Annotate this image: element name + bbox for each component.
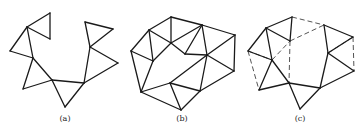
panel-c-chain-with-dashed-fill	[248, 17, 354, 109]
solid-edge	[131, 30, 149, 51]
solid-edge	[170, 55, 207, 83]
solid-edge	[207, 55, 234, 71]
dashed-edge	[289, 41, 290, 83]
caption-a: (a)	[59, 114, 70, 123]
solid-edge	[266, 28, 290, 41]
solid-edge	[324, 25, 328, 53]
solid-edge	[320, 71, 354, 88]
solid-edge	[85, 22, 90, 47]
solid-edge	[10, 51, 33, 58]
solid-edge	[202, 25, 207, 55]
solid-edge	[181, 91, 200, 110]
solid-edge	[141, 61, 153, 92]
solid-edge	[85, 22, 113, 29]
dashed-edge	[292, 17, 324, 25]
solid-edge	[10, 27, 27, 51]
solid-edge	[300, 88, 320, 109]
solid-edge	[84, 47, 90, 83]
solid-edge	[149, 30, 171, 43]
solid-edge	[266, 28, 272, 60]
solid-edge	[171, 43, 185, 54]
solid-edge	[248, 28, 266, 51]
panel-a-triangle-chain	[10, 13, 118, 107]
solid-edge	[170, 83, 200, 91]
solid-edge	[185, 54, 207, 55]
solid-edge	[289, 83, 300, 109]
solid-edge	[248, 51, 272, 60]
solid-edge	[328, 37, 353, 53]
solid-edge	[131, 51, 141, 92]
solid-edge	[320, 53, 328, 88]
solid-edge	[90, 47, 118, 63]
solid-edge	[259, 83, 289, 90]
solid-edge	[328, 53, 354, 71]
solid-edge	[200, 55, 207, 91]
dashed-edge	[272, 41, 290, 60]
solid-edge	[27, 27, 33, 58]
caption-c: (c)	[295, 114, 306, 123]
triangulation-figure: (a) (b) (c)	[0, 0, 364, 136]
dashed-edge	[290, 25, 324, 41]
solid-edge	[27, 27, 50, 39]
solid-edge	[52, 80, 65, 107]
solid-edge	[234, 35, 235, 71]
solid-edge	[90, 29, 113, 47]
solid-edge	[52, 80, 84, 83]
solid-edge	[23, 58, 33, 89]
solid-edge	[141, 83, 170, 92]
solid-edge	[200, 71, 234, 91]
solid-edge	[27, 13, 50, 27]
solid-edge	[33, 58, 52, 80]
solid-edge	[289, 83, 320, 88]
solid-edge	[149, 17, 171, 30]
solid-edge	[290, 17, 292, 41]
solid-edge	[149, 30, 153, 61]
dashed-edge	[248, 51, 259, 90]
solid-edge	[65, 83, 84, 107]
solid-edge	[153, 43, 171, 61]
solid-edge	[202, 25, 235, 35]
solid-edge	[272, 60, 289, 83]
solid-edge	[23, 80, 52, 89]
solid-edge	[324, 25, 353, 37]
solid-edge	[84, 63, 118, 83]
solid-edge	[131, 51, 153, 61]
solid-edge	[266, 17, 292, 28]
solid-edge	[171, 17, 202, 25]
panel-b-triangulated-mesh	[131, 17, 235, 110]
dashed-edge	[353, 37, 354, 71]
solid-edge	[259, 60, 272, 90]
caption-b: (b)	[176, 114, 187, 123]
solid-edge	[207, 35, 235, 55]
